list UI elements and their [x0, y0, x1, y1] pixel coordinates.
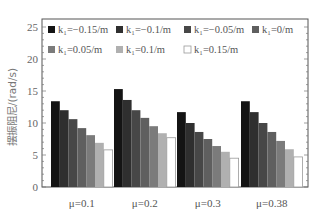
legend-item: k₁=0.15/m — [184, 44, 238, 55]
legend-label: k₁=−0.1/m — [126, 24, 171, 35]
bar-group — [51, 101, 113, 187]
bar — [123, 100, 132, 187]
y-tick-label: 25 — [27, 21, 39, 33]
legend-swatch — [252, 26, 259, 33]
legend-label: k₁=−0.15/m — [58, 24, 108, 35]
legend-item: k₁=0.05/m — [48, 44, 102, 55]
bar — [69, 119, 78, 187]
bar — [212, 146, 221, 187]
bar — [221, 152, 230, 187]
bar — [114, 89, 123, 187]
x-category-label: μ=0.1 — [69, 197, 95, 209]
legend-label: k₁=−0.05/m — [194, 24, 244, 35]
legend-label: k₁=0/m — [262, 24, 293, 35]
bar — [203, 139, 212, 187]
bar — [149, 126, 158, 187]
x-category-label: μ=0.3 — [195, 197, 221, 209]
legend-swatch — [184, 46, 191, 53]
legend-label: k₁=0.15/m — [194, 44, 238, 55]
legend-swatch — [48, 26, 55, 33]
bar — [177, 112, 186, 187]
bar — [132, 110, 141, 187]
y-axis-label: 摆振阻尼/(rad/s) — [6, 68, 18, 146]
bar — [60, 110, 69, 187]
bar — [276, 141, 285, 187]
bars — [51, 89, 303, 187]
legend-item: k₁=0/m — [252, 24, 293, 35]
x-category-label: μ=0.38 — [256, 197, 288, 209]
legend-swatch — [116, 26, 123, 33]
bar — [95, 143, 104, 187]
y-tick-label: 5 — [33, 149, 39, 161]
y-tick-label: 15 — [27, 85, 39, 97]
legend-item: k₁=−0.05/m — [184, 24, 244, 35]
legend-label: k₁=0.05/m — [58, 44, 102, 55]
bar — [285, 149, 294, 187]
bar — [186, 123, 195, 187]
bar-group — [241, 101, 303, 187]
bar — [158, 133, 167, 187]
bar — [140, 118, 149, 187]
bar — [51, 101, 60, 187]
bar — [259, 123, 268, 187]
y-tick-label: 10 — [27, 117, 39, 129]
legend-item: k₁=−0.15/m — [48, 24, 108, 35]
legend-label: k₁=0.1/m — [126, 44, 165, 55]
bar-group — [114, 89, 176, 187]
bar-group — [177, 112, 239, 187]
bar — [294, 157, 303, 187]
bar — [241, 101, 250, 187]
legend-item: k₁=0.1/m — [116, 44, 165, 55]
bar — [86, 135, 95, 187]
bar-chart: 0510152025 μ=0.1μ=0.2μ=0.3μ=0.38 k₁=−0.1… — [0, 0, 322, 216]
bar — [250, 112, 259, 187]
x-category-label: μ=0.2 — [132, 197, 158, 209]
bar — [104, 150, 113, 187]
y-tick-label: 20 — [27, 53, 39, 65]
legend-swatch — [116, 46, 123, 53]
x-axis-labels: μ=0.1μ=0.2μ=0.3μ=0.38 — [69, 197, 288, 209]
y-tick-label: 0 — [33, 181, 39, 193]
legend-swatch — [48, 46, 55, 53]
legend-item: k₁=−0.1/m — [116, 24, 171, 35]
legend: k₁=−0.15/mk₁=−0.1/mk₁=−0.05/mk₁=0/mk₁=0.… — [48, 24, 293, 55]
bar — [167, 138, 176, 187]
bar — [77, 128, 86, 187]
legend-swatch — [184, 26, 191, 33]
bar — [267, 132, 276, 187]
bar — [195, 132, 204, 187]
bar — [230, 158, 239, 187]
